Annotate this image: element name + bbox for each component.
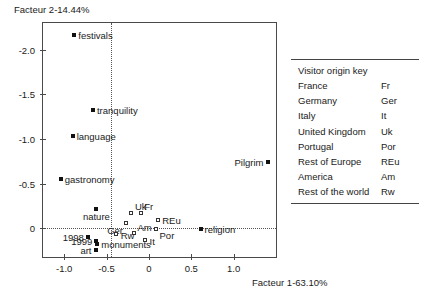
point-marker-filled-square [71, 134, 75, 138]
point-label: Por [160, 231, 175, 241]
legend-origin-name: France [298, 80, 381, 91]
point-marker-open-square [129, 211, 133, 215]
legend-row: PortugalPor [291, 139, 419, 154]
point-label: Am [138, 223, 152, 233]
legend-origin-name: Germany [298, 95, 381, 106]
legend-origin-abbr: Fr [381, 80, 411, 91]
legend-row: GermanyGer [291, 93, 419, 108]
legend-origin-abbr: It [381, 110, 411, 121]
reference-line-horizontal [43, 228, 276, 229]
correspondence-analysis-figure: Facteur 2-14.44% -2.0-1.5-1.0-0.50 -1.0-… [0, 0, 428, 296]
legend-row: AmericaAm [291, 169, 419, 184]
point-marker-filled-square [199, 227, 203, 231]
legend-origin-abbr: REu [381, 156, 411, 167]
legend-row: Rest of EuropeREu [291, 154, 419, 169]
point-marker-filled-square [94, 248, 98, 252]
legend-rows: FranceFrGermanyGerItalyItUnited KingdomU… [291, 78, 419, 200]
point-marker-filled-square [72, 33, 76, 37]
point-marker-open-square [114, 232, 118, 236]
point-marker-open-square [156, 218, 160, 222]
y-tick: -0.5 [40, 184, 46, 185]
y-tick: -1.0 [40, 139, 46, 140]
legend-origin-name: Rest of Europe [298, 156, 381, 167]
point-marker-open-square [154, 227, 158, 231]
x-tick-mark [191, 254, 192, 260]
legend-row: United KingdomUk [291, 124, 419, 139]
legend-origin-name: America [298, 171, 381, 182]
x-tick-mark [64, 254, 65, 260]
point-marker-filled-square [266, 160, 270, 164]
y-tick: -1.5 [40, 94, 46, 95]
y-tick-label: -1.0 [19, 134, 35, 145]
legend-row: FranceFr [291, 78, 419, 93]
legend-origin-name: Rest of the world [298, 186, 381, 197]
x-tick-label: -1.0 [56, 263, 72, 274]
x-tick-label: 0.5 [185, 263, 198, 274]
y-axis-title: Facteur 2-14.44% [14, 4, 90, 15]
y-tick-label: -0.5 [19, 179, 35, 190]
legend-origin-name: United Kingdom [298, 126, 381, 137]
legend-origin-name: Italy [298, 110, 381, 121]
legend-origin-abbr: Ger [381, 95, 411, 106]
legend-row: Rest of the worldRw [291, 184, 419, 199]
visitor-origin-key-table: Visitor origin key FranceFrGermanyGerIta… [291, 59, 419, 204]
point-marker-filled-square [59, 177, 63, 181]
legend-origin-abbr: Por [381, 141, 411, 152]
point-label: It [150, 237, 155, 247]
legend-origin-abbr: Uk [381, 126, 411, 137]
point-label: language [77, 132, 116, 142]
point-label: gastronomy [65, 175, 115, 185]
point-label: art [80, 246, 91, 256]
point-label: religion [205, 225, 236, 235]
legend-title-row: Visitor origin key [291, 63, 419, 78]
x-tick-mark [107, 254, 108, 260]
point-label: Fr [144, 202, 153, 212]
point-label: Pilgrim [234, 158, 263, 168]
x-tick-label: -0.5 [98, 263, 114, 274]
point-marker-open-square [124, 221, 128, 225]
point-label: Rw [121, 231, 135, 241]
x-tick-label: 0 [146, 263, 151, 274]
point-label: nature [83, 212, 110, 222]
point-marker-filled-square [91, 108, 95, 112]
y-tick-label: -1.5 [19, 89, 35, 100]
x-tick-mark [234, 254, 235, 260]
point-label: tranquility [97, 106, 138, 116]
plot-area: -2.0-1.5-1.0-0.50 -1.0-0.500.51.0 festiv… [42, 22, 277, 258]
x-axis-title: Facteur 1-63.10% [252, 277, 328, 288]
y-tick: 0 [40, 228, 46, 229]
point-label: festivals [78, 31, 112, 41]
legend-row: ItalyIt [291, 108, 419, 123]
legend-origin-abbr: Rw [381, 186, 411, 197]
x-tick-mark [149, 254, 150, 260]
point-marker-open-square [143, 238, 147, 242]
legend-origin-abbr: Am [381, 171, 411, 182]
x-tick-label: 1.0 [227, 263, 240, 274]
point-marker-open-square [139, 211, 143, 215]
y-tick-label: -2.0 [19, 45, 35, 56]
legend-origin-name: Portugal [298, 141, 381, 152]
y-tick: -2.0 [40, 50, 46, 51]
legend-title: Visitor origin key [298, 65, 411, 76]
point-label: REu [162, 216, 180, 226]
point-marker-filled-square [95, 242, 99, 246]
y-tick-label: 0 [30, 223, 35, 234]
